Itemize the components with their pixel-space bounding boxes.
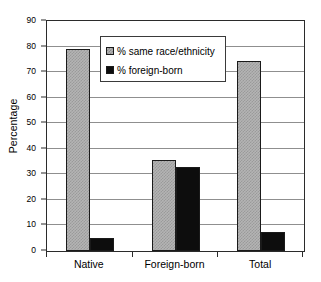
bar <box>237 61 261 251</box>
bar <box>66 49 90 251</box>
legend-label-1: % foreign-born <box>117 65 183 76</box>
y-axis-tick-label: 60 <box>27 92 36 102</box>
y-axis-tick-label: 70 <box>27 66 36 76</box>
x-axis-tick <box>132 252 133 257</box>
y-axis-tick-label: 90 <box>27 15 36 25</box>
x-axis-tick <box>217 252 218 257</box>
x-axis-tick-label: Foreign-born <box>144 258 204 270</box>
y-axis-tick-labels: 0102030405060708090 <box>0 0 46 252</box>
bar <box>261 232 285 251</box>
bar <box>152 160 176 251</box>
x-axis-tick-label: Total <box>249 258 271 270</box>
x-axis-tick-label: Native <box>74 258 104 270</box>
x-axis-tick-labels: NativeForeign-bornTotal <box>46 258 305 278</box>
bar <box>176 167 200 251</box>
y-axis-tick-label: 50 <box>27 117 36 127</box>
bar <box>90 238 114 251</box>
legend-swatch-foreign-born-icon <box>106 66 114 74</box>
x-axis-tick <box>46 252 47 257</box>
y-axis-tick-label: 80 <box>27 41 36 51</box>
y-axis-tick-label: 10 <box>27 219 36 229</box>
chart-legend: % same race/ethnicity % foreign-born <box>100 36 226 82</box>
y-axis-tick-label: 20 <box>27 194 36 204</box>
x-axis-tick <box>302 252 303 257</box>
legend-label-0: % same race/ethnicity <box>117 46 215 57</box>
legend-item-1: % foreign-born <box>106 61 220 79</box>
legend-item-0: % same race/ethnicity <box>106 42 220 60</box>
y-axis-tick-label: 30 <box>27 168 36 178</box>
y-axis-tick-label: 40 <box>27 143 36 153</box>
y-axis-tick-label: 0 <box>31 245 36 255</box>
legend-swatch-same-race-icon <box>106 47 114 55</box>
bar-chart: Percentage 0102030405060708090 NativeFor… <box>0 0 321 282</box>
